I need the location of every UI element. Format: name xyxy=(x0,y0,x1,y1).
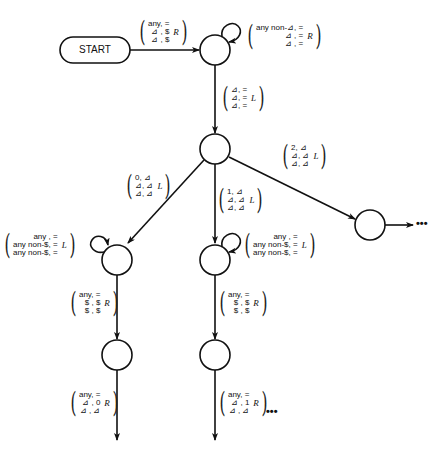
ellipsis-right: ••• xyxy=(416,217,428,229)
label-q1-loop: ( any non-⊿, = ⊿ , = ⊿ , = R ) xyxy=(245,22,324,50)
label-q4-loop: ( any , = any non-$, = any non-$, = L ) xyxy=(242,231,318,259)
label-q2-q5: ( 2, ⊿ ⊿, ⊿ ⊿, ⊿ L ) xyxy=(280,142,329,170)
state-q7 xyxy=(200,340,230,370)
label-start-q1: ( any, = ⊿ , $ ⊿ , $ R ) xyxy=(137,18,190,46)
label-q1-q2: ( ⊿, = ⊿, = ⊿, = L ) xyxy=(220,84,267,112)
label-q7-out: ( any, = ⊿ , 1 ⊿ , ⊿ R ) xyxy=(217,389,270,417)
label-q3-q6: ( any, = $ , $ $ , $ R ) xyxy=(68,289,121,317)
label-q6-out: ( any, = ⊿ , 0 ⊿ , ⊿ R ) xyxy=(68,389,121,417)
state-q3 xyxy=(102,245,132,275)
label-q4-q7: ( any, = $ , $ $ , $ R ) xyxy=(217,289,270,317)
state-q4 xyxy=(200,245,230,275)
state-q6 xyxy=(102,340,132,370)
state-q2 xyxy=(200,134,230,164)
start-label: START xyxy=(79,44,111,55)
label-q3-loop: ( any , = any non-$, = any non-$, = L ) xyxy=(2,231,78,259)
label-q2-q3: ( 0, ⊿ ⊿, ⊿ ⊿, ⊿ L ) xyxy=(124,172,173,200)
state-q1 xyxy=(200,35,230,65)
label-q2-q4: ( 1, ⊿ ⊿, ⊿ ⊿, ⊿ L ) xyxy=(216,186,265,214)
state-q5 xyxy=(355,210,385,240)
